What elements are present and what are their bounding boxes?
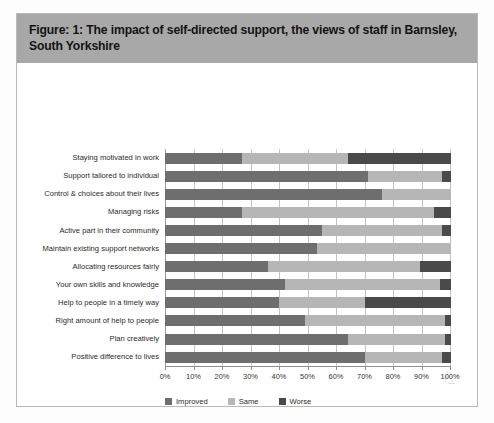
y-axis-label: Control & choices about their lives — [44, 185, 159, 203]
x-axis-tick-label: 100% — [441, 372, 460, 381]
figure-frame: Figure: 1: The impact of self-directed s… — [16, 13, 478, 407]
x-axis-tick — [279, 366, 280, 370]
bar-segment-same — [285, 279, 439, 290]
x-axis-tick-label: 70% — [357, 372, 372, 381]
x-axis-tick-label: 60% — [329, 372, 344, 381]
y-axis-label: Managing risks — [108, 203, 159, 221]
chart-legend: ImprovedSameWorse — [165, 394, 311, 407]
bar-segment-same — [368, 171, 442, 182]
legend-item-worse[interactable]: Worse — [279, 397, 312, 406]
figure-title: Figure: 1: The impact of self-directed s… — [29, 22, 465, 54]
legend-label: Improved — [176, 397, 208, 406]
y-axis-label: Maintain existing support networks — [43, 240, 160, 258]
legend-item-improved[interactable]: Improved — [165, 397, 208, 406]
bar-segment-worse — [442, 352, 451, 363]
legend-item-same[interactable]: Same — [228, 397, 259, 406]
bar-row — [165, 153, 451, 164]
bar-segment-improved — [165, 207, 242, 218]
x-axis-tick — [336, 366, 337, 370]
y-axis-label: Active part in their community — [59, 222, 159, 240]
bar-segment-worse — [442, 171, 451, 182]
bar-segment-improved — [165, 243, 317, 254]
bar-segment-same — [365, 352, 442, 363]
x-axis-tick — [450, 366, 451, 370]
x-axis-tick — [308, 366, 309, 370]
x-axis-tick-label: 90% — [414, 372, 429, 381]
bar-segment-improved — [165, 334, 348, 345]
bar-row — [165, 189, 451, 200]
x-axis-line — [165, 366, 451, 367]
legend-swatch-icon — [165, 398, 172, 405]
bar-row — [165, 261, 451, 272]
bar-segment-improved — [165, 352, 365, 363]
bar-segment-worse — [442, 225, 451, 236]
bar-segment-improved — [165, 225, 322, 236]
y-axis-label: Support tailored to individual — [63, 167, 159, 185]
legend-swatch-icon — [228, 398, 235, 405]
x-axis-tick-label: 10% — [186, 372, 201, 381]
y-axis-label: Your own skills and knowledge — [56, 276, 159, 294]
bar-segment-improved — [165, 189, 382, 200]
legend-label: Same — [239, 397, 259, 406]
legend-label: Worse — [290, 397, 312, 406]
legend-swatch-icon — [279, 398, 286, 405]
x-axis-tick-label: 50% — [300, 372, 315, 381]
x-axis-tick — [393, 366, 394, 370]
x-axis-tick-labels: 0%10%20%30%40%50%60%70%80%90%100% — [165, 372, 451, 386]
bar-segment-improved — [165, 153, 242, 164]
y-axis-label: Positive difference to lives — [71, 348, 159, 366]
bar-segment-improved — [165, 279, 285, 290]
bar-segment-improved — [165, 171, 368, 182]
x-axis-tick-label: 40% — [272, 372, 287, 381]
y-axis-category-labels: Staying motivated in workSupport tailore… — [17, 149, 164, 366]
x-axis-tick-label: 30% — [243, 372, 258, 381]
bar-row — [165, 225, 451, 236]
bar-segment-worse — [365, 297, 451, 308]
x-axis-tick — [222, 366, 223, 370]
bar-segment-worse — [420, 261, 451, 272]
bar-row — [165, 352, 451, 363]
x-axis-tick — [165, 366, 166, 370]
bar-segment-worse — [445, 315, 451, 326]
bar-row — [165, 297, 451, 308]
x-axis-tick — [194, 366, 195, 370]
figure-title-banner: Figure: 1: The impact of self-directed s… — [17, 14, 477, 63]
x-axis-tick-label: 0% — [160, 372, 171, 381]
bar-segment-same — [348, 334, 445, 345]
chart-plot-area: Staying motivated in workSupport tailore… — [17, 63, 477, 407]
bar-segment-worse — [440, 279, 451, 290]
bar-segment-worse — [434, 207, 451, 218]
y-axis-label: Right amount of help to people — [56, 312, 159, 330]
bar-segment-same — [242, 153, 348, 164]
y-axis-label: Help to people in a timely way — [58, 294, 159, 312]
y-axis-label: Staying motivated in work — [72, 149, 159, 167]
bar-segment-improved — [165, 261, 268, 272]
bar-row — [165, 334, 451, 345]
bar-segment-same — [279, 297, 365, 308]
x-axis-tick — [251, 366, 252, 370]
x-axis-tick-label: 80% — [386, 372, 401, 381]
bar-segment-worse — [445, 334, 451, 345]
stacked-bar-canvas — [165, 149, 451, 366]
bar-segment-same — [382, 189, 451, 200]
bar-segment-same — [322, 225, 442, 236]
bar-segment-worse — [348, 153, 451, 164]
page-root: Figure: 1: The impact of self-directed s… — [0, 0, 494, 423]
bar-segment-same — [268, 261, 420, 272]
bar-segment-same — [242, 207, 434, 218]
bar-row — [165, 171, 451, 182]
bar-segment-improved — [165, 315, 305, 326]
y-axis-label: Plan creatively — [110, 330, 159, 348]
y-axis-label: Allocating resources fairly — [72, 258, 159, 276]
bar-row — [165, 315, 451, 326]
bar-segment-same — [305, 315, 445, 326]
x-axis-tick — [422, 366, 423, 370]
bar-row — [165, 279, 451, 290]
bar-segment-same — [317, 243, 451, 254]
bar-row — [165, 207, 451, 218]
bar-row — [165, 243, 451, 254]
x-axis-tick — [365, 366, 366, 370]
bar-segment-improved — [165, 297, 279, 308]
x-axis-tick-label: 20% — [215, 372, 230, 381]
